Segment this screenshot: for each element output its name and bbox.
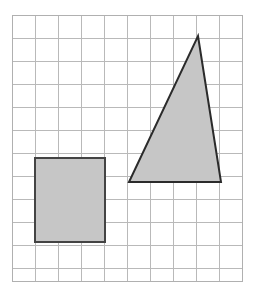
figure-canvas: Shaded rectangle and triangle on a squar…	[0, 0, 254, 293]
shapes-layer	[35, 36, 221, 242]
shape-rectangle	[35, 158, 105, 242]
shape-triangle	[129, 36, 221, 182]
grid-shapes-svg	[0, 0, 254, 293]
